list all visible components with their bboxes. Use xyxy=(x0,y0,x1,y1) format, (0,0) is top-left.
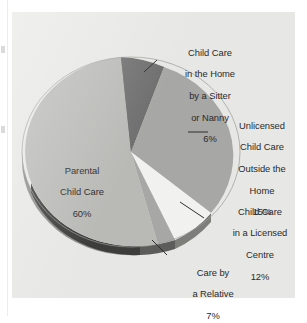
pie-label-unlicensed-line4: Home xyxy=(218,186,306,197)
pie-label-unlicensed-line2: Child Care xyxy=(218,142,306,153)
pie-label-licensed-line1: Child Care xyxy=(214,207,306,218)
pie-label-sitter-line2: in the Home xyxy=(164,69,256,80)
pie-label-licensed-line2: in a Licensed xyxy=(214,228,306,239)
scan-artifact-mark xyxy=(1,126,5,133)
pie-label-relative-line1: Care by xyxy=(172,268,254,279)
pie-label-relative-value: 7% xyxy=(172,311,254,322)
pie-label-sitter-line1: Child Care xyxy=(164,48,256,59)
scan-edge-line xyxy=(7,0,8,316)
pie-label-relative-line2: a Relative xyxy=(172,289,254,300)
figure-panel: Child Care in the Home by a Sitter or Na… xyxy=(12,12,295,298)
pie-label-relative: Care by a Relative 7% xyxy=(172,257,254,323)
pie-label-parental-value: 60% xyxy=(40,209,124,220)
pie-label-parental: Parental Child Care 60% xyxy=(40,155,124,231)
scan-artifact-mark xyxy=(1,46,5,53)
pie-label-parental-line1: Parental xyxy=(40,166,124,177)
pie-label-unlicensed-line3: Outside the xyxy=(218,164,306,175)
pie-label-parental-line2: Child Care xyxy=(40,187,124,198)
pie-label-sitter-line3: by a Sitter xyxy=(164,91,256,102)
pie-label-unlicensed-line1: Unlicensed xyxy=(218,121,306,132)
pie-chart: Child Care in the Home by a Sitter or Na… xyxy=(12,12,295,298)
